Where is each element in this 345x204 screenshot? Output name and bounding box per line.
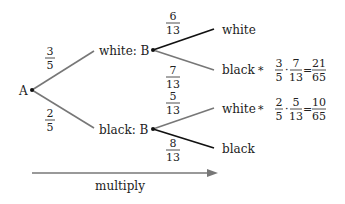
branch-whiteb-white (153, 29, 214, 50)
prob-num: 5 (170, 90, 177, 103)
calc-b-den: 13 (289, 71, 303, 84)
calc-r-den: 65 (312, 110, 326, 123)
leaf-white-white: white (222, 23, 256, 37)
prob-den: 13 (166, 151, 180, 164)
branch-a-white (32, 51, 94, 90)
prob-whiteb-white: 6 13 (166, 10, 180, 37)
calc-r-num: 10 (312, 96, 326, 109)
node-blackb-label: black: B (99, 123, 149, 137)
calc-eq: = (303, 103, 312, 116)
calc-white-black: 3 5 · 7 13 = 21 65 (275, 57, 326, 84)
calc-black-white: 2 5 · 5 13 = 10 65 (275, 96, 326, 123)
calc-a-num: 2 (276, 96, 283, 109)
multiply-arrow: multiply (32, 169, 218, 193)
prob-num: 3 (47, 45, 54, 58)
prob-blackb-white: 5 13 (166, 90, 180, 117)
prob-num: 6 (170, 10, 177, 23)
calc-a-num: 3 (276, 57, 283, 70)
node-a-label: A (18, 84, 28, 98)
leaf-black-white: white (222, 102, 256, 116)
calc-op: · (285, 64, 289, 77)
prob-a-white: 3 5 (45, 45, 55, 72)
calc-a-den: 5 (276, 110, 283, 123)
node-a-dot (30, 88, 34, 92)
leaf-white-black: black (222, 63, 255, 77)
calc-b-den: 13 (289, 110, 303, 123)
probability-tree-diagram: A white: B black: B 3 5 2 5 6 13 7 13 5 … (0, 0, 345, 204)
prob-num: 2 (47, 107, 54, 120)
branch-blackb-white (153, 108, 214, 129)
prob-num: 8 (170, 137, 177, 150)
calc-eq: = (303, 64, 312, 77)
arrow-head-icon (207, 169, 218, 177)
prob-den: 5 (47, 59, 54, 72)
marker-star: * (258, 103, 264, 116)
prob-num: 7 (170, 64, 177, 77)
node-blackb-dot (151, 127, 155, 131)
leaf-black-black: black (222, 142, 255, 156)
calc-r-num: 21 (312, 57, 326, 70)
prob-blackb-black: 8 13 (166, 137, 180, 164)
prob-den: 13 (166, 24, 180, 37)
branch-a-black (32, 90, 94, 128)
multiply-label: multiply (95, 179, 145, 193)
prob-whiteb-black: 7 13 (166, 64, 180, 91)
prob-den: 5 (47, 121, 54, 134)
branch-whiteb-black (153, 50, 214, 70)
prob-den: 13 (166, 104, 180, 117)
calc-a-den: 5 (276, 71, 283, 84)
calc-op: · (285, 103, 289, 116)
node-whiteb-dot (151, 48, 155, 52)
calc-b-num: 7 (293, 57, 300, 70)
calc-b-num: 5 (293, 96, 300, 109)
prob-a-black: 2 5 (45, 107, 55, 134)
marker-star: * (258, 64, 264, 77)
branch-blackb-black (153, 129, 214, 148)
calc-r-den: 65 (312, 71, 326, 84)
node-whiteb-label: white: B (99, 44, 150, 58)
